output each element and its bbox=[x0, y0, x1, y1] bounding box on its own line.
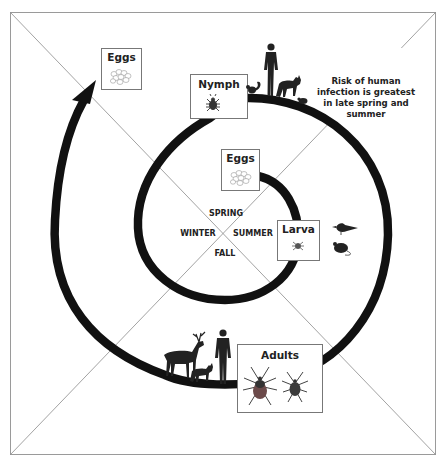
stage-label-nymph: Nymph bbox=[198, 78, 240, 90]
stage-label-eggs-start: Eggs bbox=[226, 152, 254, 164]
stage-box-adults: Adults bbox=[238, 345, 323, 413]
human-icon bbox=[215, 329, 231, 384]
bird-icon bbox=[332, 223, 358, 235]
risk-note-line-3: in late spring and bbox=[323, 98, 409, 108]
season-fall: FALL bbox=[215, 249, 236, 258]
tick-life-cycle-diagram: SPRING SUMMER FALL WINTER Risk of human … bbox=[0, 0, 446, 463]
mouse-icon bbox=[333, 242, 351, 255]
human-icon bbox=[264, 43, 278, 96]
stage-label-adults: Adults bbox=[261, 349, 299, 361]
fox-icon bbox=[276, 75, 301, 97]
spiral-arrowhead-icon bbox=[72, 80, 96, 104]
stage-box-eggs-start: Eggs bbox=[222, 150, 260, 191]
season-winter: WINTER bbox=[180, 229, 216, 238]
risk-note-line-4: summer bbox=[346, 109, 386, 119]
stage-label-larva: Larva bbox=[282, 223, 315, 235]
risk-note-line-1: Risk of human bbox=[331, 76, 400, 86]
season-spring: SPRING bbox=[209, 209, 243, 218]
squirrel-icon bbox=[246, 82, 261, 94]
risk-note-line-2: infection is greatest bbox=[317, 87, 415, 97]
stage-box-eggs-end: Eggs bbox=[102, 49, 142, 90]
stage-label-eggs-end: Eggs bbox=[107, 51, 135, 63]
season-summer: SUMMER bbox=[233, 229, 273, 238]
stage-box-larva: Larva bbox=[278, 221, 320, 261]
stage-box-nymph: Nymph bbox=[191, 75, 248, 119]
